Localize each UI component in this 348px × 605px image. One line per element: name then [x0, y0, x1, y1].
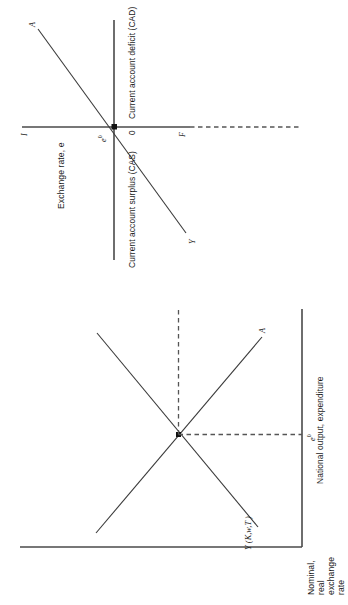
right-panel-y-axis-label: Exchange rate, e	[56, 142, 66, 209]
right-panel-equilibrium-tick-superscript: 0	[97, 135, 103, 138]
right-panel-vertical-axis-bottom-label: F	[178, 132, 188, 137]
right-panel-equilibrium-point	[112, 124, 118, 130]
right-panel-x-axis-label-left: Current account surplus (CAS)	[128, 151, 138, 268]
left-panel-equilibrium-tick-label: e0	[306, 434, 317, 441]
left-panel-y-axis-label-line-0: Nominal,	[306, 525, 316, 595]
left-panel-y-axis-label-line-3: rate	[336, 525, 346, 595]
left-panel-y-axis-label-line-2: exchange	[326, 525, 336, 595]
right-panel-x-axis-label-right: Current account deficit (CAD)	[128, 7, 138, 119]
right-panel-curve-label-left: Y	[188, 239, 198, 244]
left-panel-y-axis-label: Nominal, real exchange rate	[306, 525, 347, 595]
right-panel-equilibrium-tick-letter: e	[99, 138, 108, 142]
right-panel-vertical-axis-top-label: I	[20, 133, 30, 136]
left-panel-equilibrium-tick-letter: e	[308, 437, 317, 441]
figure-canvas: Nominal, real exchange rate National out…	[0, 0, 348, 605]
left-panel-y-curve-label: Y (K,w,T )	[244, 516, 254, 550]
left-panel-x-axis-label: National output, expenditure	[316, 376, 326, 484]
figure-rotation-wrapper: Nominal, real exchange rate National out…	[0, 0, 348, 605]
figure-vector-layer	[0, 0, 348, 605]
right-panel-x-axis-label-origin: 0	[128, 130, 138, 135]
left-panel-y-curve	[97, 333, 258, 527]
left-panel-y-axis-label-line-1: real	[316, 525, 326, 595]
left-panel-a-curve-label: A	[258, 328, 268, 333]
right-panel-curve-label-right: A	[28, 22, 38, 27]
right-panel-equilibrium-tick-label: e0	[97, 135, 108, 142]
left-panel-equilibrium-tick-superscript: 0	[306, 434, 312, 437]
